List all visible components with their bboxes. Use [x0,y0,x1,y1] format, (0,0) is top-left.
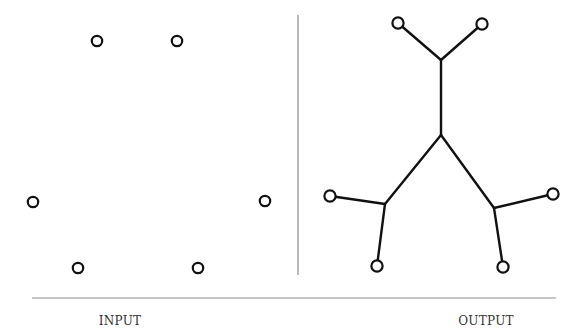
steiner-tree-diagram [0,0,582,335]
input-point-icon [260,196,270,206]
tree-edge [494,194,553,208]
input-point-icon [172,36,182,46]
output-tree-edges [330,23,553,267]
input-panel [28,36,270,273]
tree-edge [398,23,441,60]
output-label: OUTPUT [458,314,514,328]
terminal-node-icon [497,261,508,272]
input-point-icon [92,36,102,46]
tree-edge [441,24,482,60]
tree-edge [494,208,503,267]
terminal-node-icon [547,188,558,199]
input-point-icon [193,263,203,273]
input-label: INPUT [99,314,142,328]
tree-edge [385,135,441,204]
output-terminal-nodes [324,17,558,272]
terminal-node-icon [392,17,403,28]
terminal-node-icon [371,260,382,271]
terminal-node-icon [324,190,335,201]
diagram-canvas: INPUT OUTPUT [0,0,582,335]
terminal-node-icon [476,18,487,29]
tree-edge [441,135,494,208]
input-point-icon [73,263,83,273]
input-point-icon [28,197,38,207]
tree-edge [330,196,385,204]
tree-edge [377,204,385,266]
